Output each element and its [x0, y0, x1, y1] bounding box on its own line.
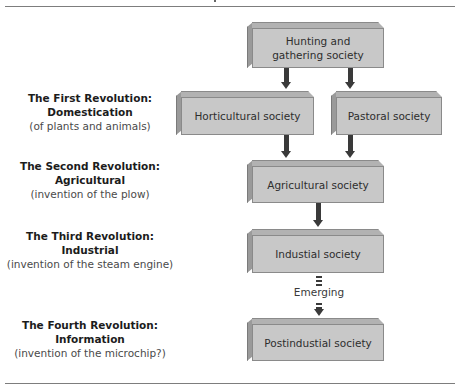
arrow-down-icon — [313, 203, 324, 227]
revolution-2-title: The Second Revolution: — [10, 159, 170, 173]
revolution-2-name: Agricultural — [10, 173, 170, 187]
dashed-arrow-segment — [316, 276, 322, 278]
revolution-4-name: Information — [10, 332, 170, 346]
box-label: Horticultural society — [181, 97, 314, 135]
revolution-2-note: (invention of the plow) — [10, 187, 170, 201]
arrow-down-icon — [345, 135, 356, 158]
revolution-1-note: (of plants and animals) — [10, 119, 170, 133]
emerging-label: Emerging — [279, 286, 359, 298]
box-label: Industial society — [252, 235, 384, 273]
revolution-4-label: The Fourth Revolution: Information (inve… — [10, 318, 170, 360]
arrow-down-icon — [281, 68, 292, 89]
top-rule — [5, 6, 455, 7]
dashed-arrow-segment — [316, 303, 322, 305]
revolution-2-label: The Second Revolution: Agricultural (inv… — [10, 159, 170, 201]
arrow-down-icon — [314, 309, 325, 317]
box-label: Postindustial society — [252, 324, 384, 361]
revolution-3-title: The Third Revolution: — [0, 229, 180, 243]
box-postindustrial: Postindustial society — [247, 318, 384, 361]
box-hunting-gathering: Hunting and gathering society — [247, 22, 384, 68]
revolution-1-title: The First Revolution: — [10, 91, 170, 105]
revolution-4-title: The Fourth Revolution: — [10, 318, 170, 332]
box-label: Hunting and gathering society — [252, 28, 384, 68]
box-agricultural: Agricultural society — [247, 160, 384, 203]
dashed-arrow-segment — [316, 280, 322, 282]
box-pastoral: Pastoral society — [331, 91, 442, 135]
revolution-4-note: (invention of the microchip?) — [10, 346, 170, 360]
arrow-down-icon — [345, 68, 356, 89]
box-label: Pastoral society — [336, 97, 442, 135]
revolution-1-label: The First Revolution: Domestication (of … — [10, 91, 170, 133]
revolution-3-name: Industrial — [0, 243, 180, 257]
box-industrial: Industial society — [247, 229, 384, 273]
revolution-3-label: The Third Revolution: Industrial (invent… — [0, 229, 180, 271]
revolution-3-note: (invention of the steam engine) — [0, 257, 180, 271]
arrow-down-icon — [281, 135, 292, 158]
box-horticultural: Horticultural society — [176, 91, 314, 135]
bottom-rule — [5, 383, 455, 384]
box-label: Agricultural society — [252, 166, 384, 203]
revolution-1-name: Domestication — [10, 105, 170, 119]
page-marker — [214, 0, 216, 2]
